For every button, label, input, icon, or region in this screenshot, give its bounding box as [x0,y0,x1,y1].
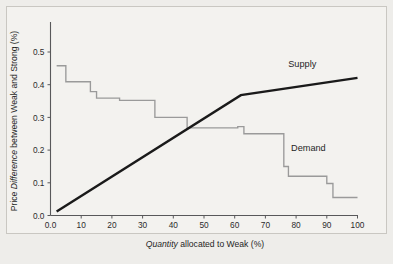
x-tick-label: 50 [199,220,209,230]
demand-series-label: Demand [291,143,326,153]
supply-series-label: Supply [288,59,316,69]
x-tick-label: 30 [138,220,148,230]
y-tick-label: 0.5 [33,47,45,57]
x-tick-label: 20 [107,220,117,230]
y-axis-title: Price Difference between Weak and Strong… [9,31,19,212]
y-tick-label: 0.4 [33,80,45,90]
y-tick-label: 0.0 [33,211,45,221]
y-axis-title-prefix: Price [9,189,19,211]
x-axis-title-rest: allocated to Weak (%) [178,239,264,249]
x-tick-label: 0.0 [45,220,57,230]
chart-figure: 0.00.10.20.30.40.5 0.0102030405060708090… [0,0,393,264]
x-tick-label: 10 [77,220,87,230]
x-tick-label: 80 [291,220,301,230]
x-tick-label: 60 [230,220,240,230]
x-axis-tick-labels: 0.0102030405060708090100 [45,220,365,230]
y-tick-label: 0.3 [33,113,45,123]
x-tick-label: 90 [322,220,332,230]
x-tick-label: 40 [169,220,179,230]
y-axis-tick-labels: 0.00.10.20.30.40.5 [33,47,45,221]
y-tick-label: 0.1 [33,178,45,188]
chart-plot-svg: 0.00.10.20.30.40.5 0.0102030405060708090… [0,0,393,264]
y-tick-label: 0.2 [33,145,45,155]
x-axis-title-italic: Quantity [146,239,179,249]
y-axis-title-rest: between Weak and Strong (%) [9,31,19,150]
x-tick-label: 70 [261,220,271,230]
x-tick-label: 100 [351,220,365,230]
x-axis-title: Quantity allocated to Weak (%) [146,239,264,249]
y-axis-title-italic: Difference [9,150,19,189]
